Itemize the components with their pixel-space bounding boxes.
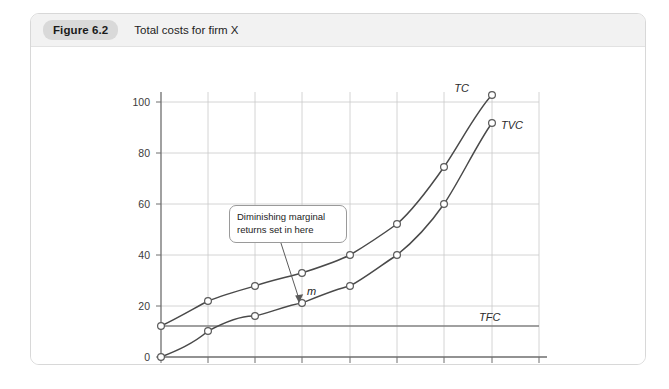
y-tick-label: 80: [138, 147, 150, 159]
figure-caption: Total costs for firm X: [134, 24, 238, 36]
y-tick-label: 0: [144, 351, 150, 363]
figure-card: Figure 6.2 Total costs for firm X: [30, 13, 646, 365]
tvc-series-label: TVC: [501, 119, 523, 131]
y-axis-tick-labels: 100 80 60 40 20 0: [132, 96, 150, 363]
plot-region: 100 80 60 40 20 0: [31, 47, 645, 365]
y-tick-label: 20: [138, 300, 150, 312]
y-tick-label: 100: [132, 96, 150, 108]
diminishing-returns-callout: Diminishing marginal returns set in here: [229, 205, 347, 243]
y-axis-ticks: [156, 102, 161, 357]
point-m-label: m: [307, 285, 316, 297]
x-axis-ticks: [161, 357, 539, 363]
tfc-series-label: TFC: [479, 311, 500, 323]
figure-number-badge: Figure 6.2: [43, 20, 118, 40]
y-tick-label: 60: [138, 198, 150, 210]
tc-series-label: TC: [454, 82, 469, 94]
y-tick-label: 40: [138, 249, 150, 261]
figure-header: Figure 6.2 Total costs for firm X: [31, 14, 645, 47]
